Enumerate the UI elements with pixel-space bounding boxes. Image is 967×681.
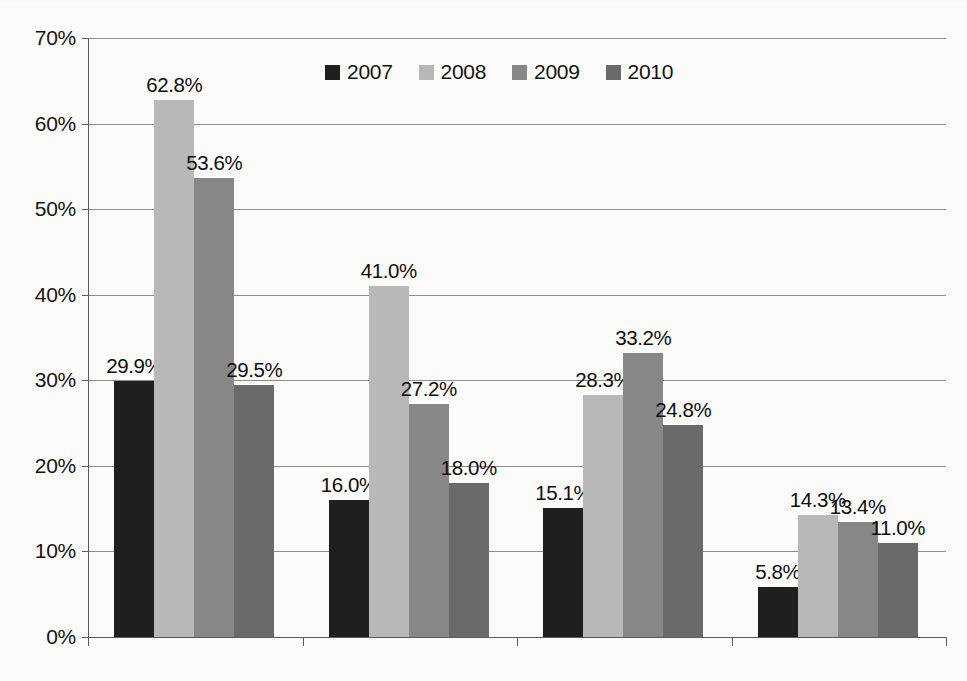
bar <box>758 587 798 637</box>
legend-label: 2007 <box>347 60 393 84</box>
bar-chart: 0%10%20%30%40%50%60%70%29.9%62.8%53.6%29… <box>0 0 967 681</box>
bar <box>329 500 369 637</box>
y-axis-tick-label: 40% <box>35 283 76 307</box>
bar-value-label: 11.0% <box>870 516 925 540</box>
y-axis-tick-label: 30% <box>35 368 76 392</box>
bar-value-label: 62.8% <box>146 73 202 97</box>
bar <box>663 425 703 637</box>
y-axis-tick-label: 60% <box>35 112 76 136</box>
x-axis-tick-mark <box>946 637 947 646</box>
bar-value-label: 29.5% <box>226 358 282 382</box>
bar <box>409 404 449 637</box>
legend-item: 2008 <box>419 60 487 84</box>
y-axis-tick-label: 20% <box>35 454 76 478</box>
gridline <box>88 124 946 125</box>
legend-item: 2010 <box>606 60 674 84</box>
bar-value-label: 24.8% <box>655 398 711 422</box>
x-axis-tick-mark <box>303 637 304 646</box>
legend-label: 2010 <box>628 60 674 84</box>
legend-label: 2008 <box>441 60 487 84</box>
bar <box>798 515 838 637</box>
x-axis-line <box>88 637 946 638</box>
bar-value-label: 18.0% <box>441 456 497 480</box>
x-axis-tick-mark <box>517 637 518 646</box>
bar <box>154 100 194 637</box>
bar <box>878 543 918 637</box>
plot-area: 0%10%20%30%40%50%60%70%29.9%62.8%53.6%29… <box>88 38 946 637</box>
bar-value-label: 53.6% <box>186 151 242 175</box>
legend-swatch-icon <box>512 65 527 80</box>
bar <box>194 178 234 637</box>
legend-item: 2009 <box>512 60 580 84</box>
bar <box>234 385 274 637</box>
y-axis-tick-label: 10% <box>35 539 76 563</box>
y-axis-tick-label: 50% <box>35 197 76 221</box>
bar <box>369 286 409 637</box>
legend-swatch-icon <box>606 65 621 80</box>
legend-item: 2007 <box>325 60 393 84</box>
bar-value-label: 5.8% <box>755 560 800 584</box>
bar <box>623 353 663 637</box>
bar-value-label: 27.2% <box>401 377 457 401</box>
legend-label: 2009 <box>534 60 580 84</box>
bar-value-label: 33.2% <box>615 326 671 350</box>
chart-legend: 2007200820092010 <box>325 60 673 84</box>
x-axis-tick-mark <box>88 637 89 646</box>
bar <box>543 508 583 637</box>
bar <box>449 483 489 637</box>
bar <box>114 381 154 637</box>
gridline <box>88 38 946 39</box>
y-axis-tick-label: 70% <box>35 26 76 50</box>
x-axis-tick-mark <box>732 637 733 646</box>
y-axis-line <box>88 38 89 637</box>
bar <box>583 395 623 637</box>
legend-swatch-icon <box>419 65 434 80</box>
legend-swatch-icon <box>325 65 340 80</box>
y-axis-tick-label: 0% <box>46 625 76 649</box>
bar-value-label: 41.0% <box>361 259 417 283</box>
